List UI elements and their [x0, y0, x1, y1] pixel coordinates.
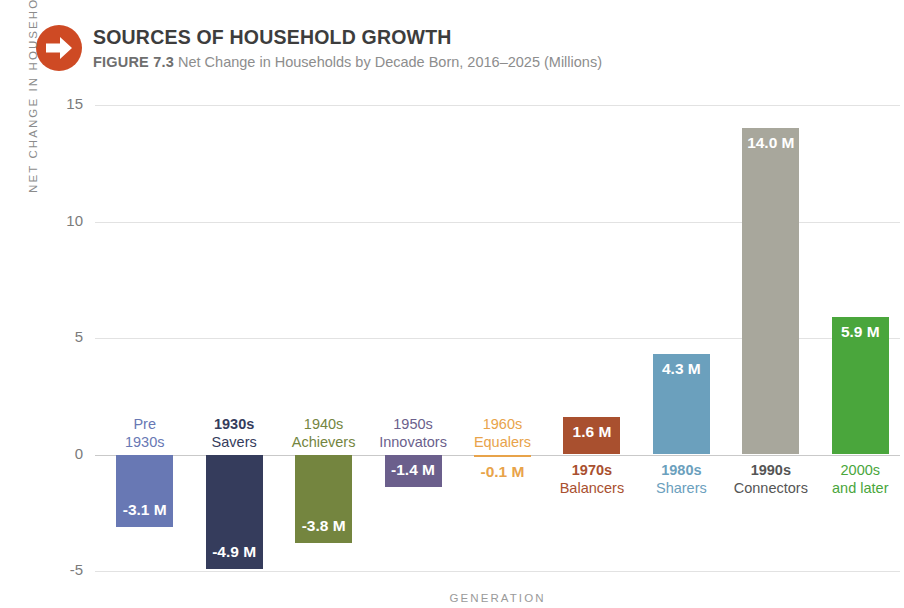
bar-value-label: 1.6 M	[532, 423, 652, 441]
bar-group[interactable]: -3.1 MPre1930s	[116, 105, 173, 571]
page-title: SOURCES OF HOUSEHOLD GROWTH	[93, 26, 893, 49]
bar-value-label: -4.9 M	[174, 543, 294, 561]
y-axis-tick-label: 0	[13, 445, 83, 462]
bar[interactable]	[474, 455, 531, 457]
y-axis-title: NET CHANGE IN HOUSEHOLDS (MILLIONS)	[27, 0, 39, 193]
bar-group[interactable]: 5.9 M2000sand later	[832, 105, 889, 571]
gridline	[95, 571, 900, 572]
figure-caption: FIGURE 7.3 Net Change in Households by D…	[93, 53, 893, 72]
bar[interactable]	[742, 128, 799, 454]
y-axis-tick-label: 15	[13, 95, 83, 112]
bar-group[interactable]: -4.9 M1930sSavers	[206, 105, 263, 571]
title-block: SOURCES OF HOUSEHOLD GROWTH FIGURE 7.3 N…	[93, 26, 893, 72]
bar-value-label: 5.9 M	[800, 323, 904, 341]
bar-value-label: 4.3 M	[621, 360, 741, 378]
bar-value-label: -3.8 M	[264, 517, 384, 535]
arrow-right-circle-icon	[36, 25, 82, 71]
y-axis-tick-label: -5	[13, 561, 83, 578]
chart-header: SOURCES OF HOUSEHOLD GROWTH FIGURE 7.3 N…	[0, 0, 904, 86]
bar-group[interactable]: 14.0 M1990sConnectors	[742, 105, 799, 571]
x-axis-category-label: 2000sand later	[800, 461, 904, 497]
x-axis-title: GENERATION	[95, 592, 900, 604]
bar-group[interactable]: 1.6 M1970sBalancers	[563, 105, 620, 571]
bar-group[interactable]: -1.4 M1950sInnovators	[385, 105, 442, 571]
bar-value-label: -3.1 M	[85, 501, 205, 519]
bar-chart-plot: -5051015 -3.1 MPre1930s-4.9 M1930sSavers…	[95, 105, 900, 571]
bar-group[interactable]: -0.1 M1960sEqualers	[474, 105, 531, 571]
bar-group[interactable]: -3.8 M1940sAchievers	[295, 105, 352, 571]
bar-value-label: 14.0 M	[711, 134, 831, 152]
bar-group[interactable]: 4.3 M1980sSharers	[653, 105, 710, 571]
y-axis-tick-label: 10	[13, 212, 83, 229]
figure-subtitle: Net Change in Households by Decade Born,…	[178, 54, 602, 70]
figure-number: FIGURE 7.3	[93, 54, 174, 70]
y-axis-tick-label: 5	[13, 328, 83, 345]
